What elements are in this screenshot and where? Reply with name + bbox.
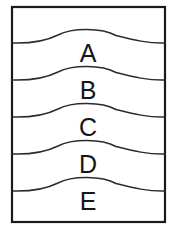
layer-diagram: ABCDE — [0, 0, 173, 235]
layer-label-b: B — [80, 76, 97, 104]
layer-label-a: A — [80, 39, 97, 67]
layer-label-d: D — [79, 150, 97, 178]
diagram-canvas: ABCDE — [0, 0, 173, 235]
layer-label-c: C — [79, 113, 97, 141]
layer-label-e: E — [80, 187, 97, 215]
layer-label-group: ABCDE — [79, 39, 97, 215]
